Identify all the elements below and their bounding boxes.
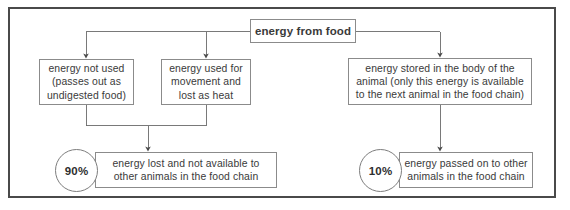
node-energy-lost: energy lost and not available to other a… xyxy=(95,152,277,188)
node-energy-used-movement-heat: energy used for movement and lost as hea… xyxy=(161,59,251,105)
node-energy-from-food: energy from food xyxy=(250,19,356,43)
diagram-canvas: energy from food energy not used (passes… xyxy=(0,0,570,210)
node-energy-not-used: energy not used (passes out as undigeste… xyxy=(39,59,134,105)
percent-badge-90-label: 90% xyxy=(65,165,89,177)
node-energy-lost-label: energy lost and not available to other a… xyxy=(109,157,262,184)
node-energy-not-used-label: energy not used (passes out as undigeste… xyxy=(44,62,129,102)
percent-badge-10-label: 10% xyxy=(369,165,393,177)
node-energy-stored-in-body-label: energy stored in the body of the animal … xyxy=(353,62,527,102)
node-energy-used-movement-heat-label: energy used for movement and lost as hea… xyxy=(166,62,246,102)
percent-badge-10: 10% xyxy=(359,149,402,192)
node-energy-from-food-label: energy from food xyxy=(252,24,354,39)
node-energy-passed-on-label: energy passed on to other animals in the… xyxy=(401,157,530,184)
node-energy-passed-on: energy passed on to other animals in the… xyxy=(399,152,533,188)
percent-badge-90: 90% xyxy=(55,149,98,192)
node-energy-stored-in-body: energy stored in the body of the animal … xyxy=(348,58,532,105)
